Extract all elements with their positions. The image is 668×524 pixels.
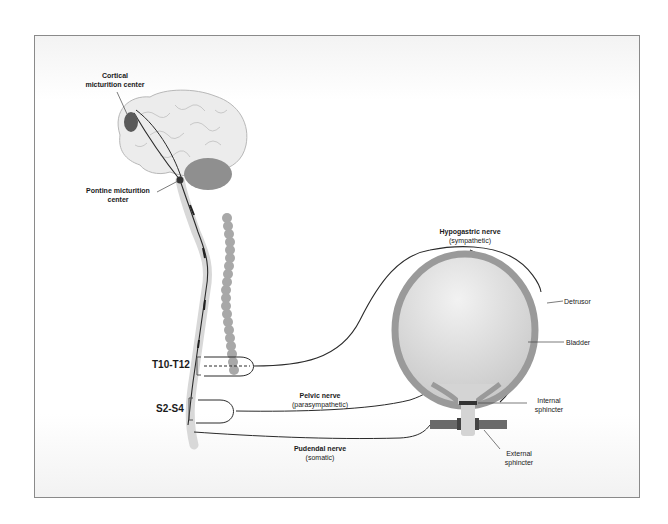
label-line: sphincter [524,405,574,414]
label-line: Pelvic nerve [270,391,370,400]
segment-label-t10-t12: T10-T12 [152,359,190,370]
pontine-center [177,177,184,184]
label-line: External [494,449,544,458]
label-cortical-micturition-center: Cortical micturition center [68,71,162,89]
label-line: (parasympathetic) [270,400,370,409]
vertebral-column [221,213,239,375]
cortical-center [124,112,138,132]
brain [118,90,247,190]
label-pudendal-nerve: Pudendal nerve (somatic) [270,444,370,462]
label-line: (sympathetic) [420,236,520,245]
cerebellum [184,158,232,190]
label-line: Internal [524,396,574,405]
internal-sphincter [459,401,477,405]
label-internal-sphincter: Internal sphincter [524,396,574,414]
pudendal-nerve [194,425,430,439]
segment-label-s2-s4: S2-S4 [156,403,184,414]
label-line: sphincter [494,458,544,467]
label-line: Pudendal nerve [270,444,370,453]
label-line: center [76,195,160,204]
label-pelvic-nerve: Pelvic nerve (parasympathetic) [270,391,370,409]
label-external-sphincter: External sphincter [494,449,544,467]
label-detrusor: Detrusor [564,297,591,306]
label-line: (somatic) [270,453,370,462]
label-hypogastric-nerve: Hypogastric nerve (sympathetic) [420,227,520,245]
label-line: Pontine micturition [76,186,160,195]
label-line: micturition center [68,80,162,89]
bladder [395,254,535,436]
label-line: Hypogastric nerve [420,227,520,236]
label-bladder: Bladder [566,338,590,347]
label-pontine-micturition-center: Pontine micturition center [76,186,160,204]
label-line: Cortical [68,71,162,80]
